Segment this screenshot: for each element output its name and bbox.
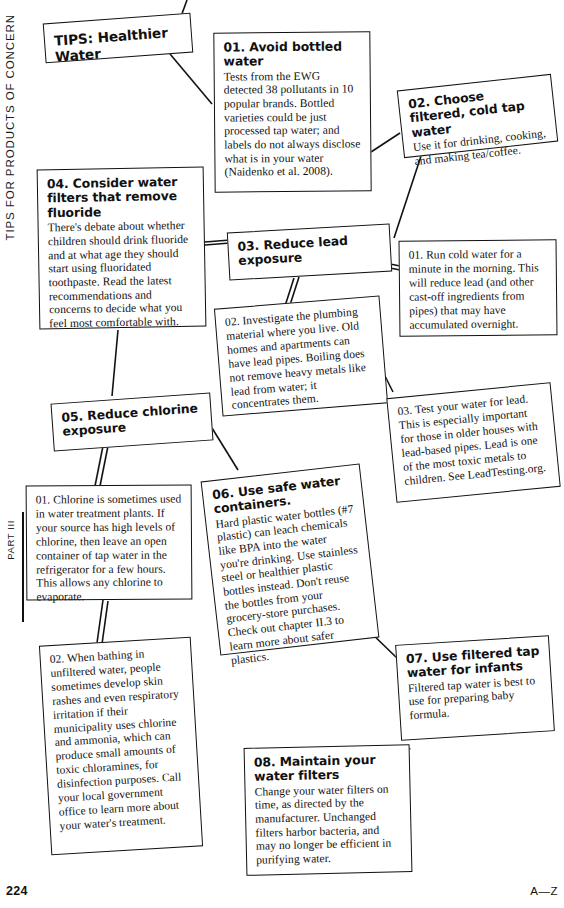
connector-05-to-06 [212,428,238,470]
node-tip-01[interactable]: 01. Avoid bottled water Tests from the E… [213,31,371,192]
part-label: PART III [5,520,16,560]
node-body: There's debate about whether children sh… [48,219,197,331]
node-tip-02[interactable]: 02. Choose filtered, cold tap water Use … [397,74,558,158]
node-tip-03-sub-01[interactable]: 01. Run cold water for a minute in the m… [399,239,558,337]
connector-03-to-03b-b [290,277,299,305]
node-tip-03[interactable]: 03. Reduce lead exposure [227,223,392,280]
connector-05a-to-05b-b [102,601,108,644]
node-tip-07[interactable]: 07. Use filtered tap water for infants F… [395,635,555,740]
node-title: 08. Maintain your water filters [254,752,401,784]
node-tip-05[interactable]: 05. Reduce chlorine exposure [51,392,214,451]
node-tip-05-sub-02[interactable]: 02. When bathing in unfiltered water, pe… [39,637,203,856]
connector-05-to-05a [95,446,103,486]
connector-04-to-05 [112,330,118,396]
connector-04-to-03-b [205,243,230,245]
node-tip-03-sub-02[interactable]: 02. Investigate the plumbing material wh… [214,296,388,417]
node-body: Tests from the EWG detected 38 pollutant… [224,69,362,180]
node-body: 02. When bathing in unfiltered water, pe… [49,645,191,833]
node-tip-05-sub-01[interactable]: 01. Chlorine is sometimes used in water … [26,484,193,600]
node-title: 04. Consider water filters that remove f… [47,175,195,221]
az-index-mark: A—Z [530,885,558,897]
node-body: 02. Investigate the plumbing material wh… [225,304,378,413]
connector-01-to-02 [371,133,400,152]
node-tip-06[interactable]: 06. Use safe water containers. Hard plas… [201,464,380,656]
node-body: Change your water filters on time, as di… [254,782,402,867]
running-head: TIPS FOR PRODUCTS OF CONCERN [4,14,16,240]
node-body: Hard plastic water bottles (#7 plastic) … [215,502,371,667]
node-tip-08[interactable]: 08. Maintain your water filters Change y… [244,744,413,876]
node-title: 01. Avoid bottled water [223,39,360,69]
node-body: 01. Run cold water for a minute in the m… [409,247,548,332]
node-tip-04[interactable]: 04. Consider water filters that remove f… [37,167,207,330]
node-tips-healthier-water[interactable]: TIPS: Healthier Water [43,13,194,64]
node-body: Filtered tap water is best to use for pr… [407,674,543,723]
node-body: 01. Chlorine is sometimes used in water … [36,492,183,604]
node-title: TIPS: Healthier Water [54,24,184,65]
connector-05a-to-05b [97,600,103,643]
page-number: 224 [6,884,28,898]
part-rule-divider [22,512,24,622]
node-body: 03. Test your water for lead. This is es… [397,391,549,488]
node-tip-03-sub-03[interactable]: 03. Test your water for lead. This is es… [386,382,560,503]
node-title: 03. Reduce lead exposure [237,232,381,269]
connector-05-to-05a-b [100,446,108,486]
node-title: 05. Reduce chlorine exposure [61,401,203,439]
